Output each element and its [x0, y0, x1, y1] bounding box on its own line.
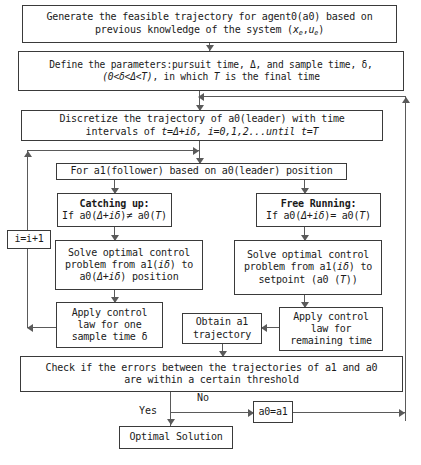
node-solve-optimal-right[interactable]: Solve optimal control problem from a1(iδ… [234, 240, 382, 295]
catching-cond-mid: )≠ a0( [120, 210, 155, 221]
connector-loop-return-horizontal [27, 150, 200, 151]
solve-right-line3-c: )) [346, 274, 358, 285]
node-optimal-solution[interactable]: Optimal Solution [119, 426, 233, 449]
reassign-text: a0=a1 [256, 406, 290, 418]
node-discretize-line1: Discretize the trajectory of a0(leader) … [24, 113, 380, 125]
node-generate-line1: Generate the feasible trajectory for age… [25, 11, 394, 23]
check-line1: Check if the errors between the trajecto… [23, 362, 400, 374]
node-reassign-a0[interactable]: a0=a1 [253, 401, 293, 423]
free-cond-it: Δ+iδ [301, 210, 324, 221]
solve-right-line3-a: setpoint (a0 ( [259, 274, 341, 285]
free-cond-pre: If a0( [266, 210, 301, 221]
node-for-a1-text: For a1(follower) based on a0(leader) pos… [59, 165, 344, 177]
node-discretize-trajectory[interactable]: Discretize the trajectory of a0(leader) … [21, 110, 383, 141]
apply-right-line3: remaining time [282, 335, 380, 347]
node-generate-trajectory[interactable]: Generate the feasible trajectory for age… [22, 5, 397, 43]
solve-left-line2-c: ) to [170, 259, 193, 270]
arrowhead-feedback-right-up [402, 97, 410, 103]
edge-label-no: No [197, 392, 209, 403]
node-apply-control-right[interactable]: Apply control law for remaining time [279, 307, 383, 351]
arrowhead-apply-left-to-loop [27, 324, 33, 332]
solve-right-line1: Solve optimal control [237, 249, 379, 261]
node-for-a1-follower[interactable]: For a1(follower) based on a0(leader) pos… [56, 163, 347, 180]
catching-cond-post: ) [161, 210, 167, 221]
arrowhead-check-to-optimal [167, 419, 175, 425]
node-define-tail: is the final time [219, 71, 319, 82]
apply-left-line1: Apply control [59, 307, 160, 319]
apply-right-line1: Apply control [282, 311, 380, 323]
edge-label-yes: Yes [139, 405, 157, 416]
check-line2: are within a certain threshold [23, 374, 400, 386]
solve-left-line2: problem from a1(iδ) to [58, 259, 200, 271]
node-apply-control-left[interactable]: Apply control law for one sample time δ [56, 302, 163, 348]
solve-right-line2: problem from a1(iδ) to [237, 261, 379, 273]
node-define-inequality: (0<δ<Δ<T) [102, 71, 152, 82]
catching-cond-pre: If a0( [62, 210, 97, 221]
node-catching-up-condition: If a0(Δ+iδ)≠ a0(T) [60, 210, 169, 222]
connector-feedback-top-horizontal [199, 96, 406, 97]
node-increment-counter[interactable]: i=i+1 [7, 230, 51, 249]
node-generate-line2-pre: previous knowledge of the system ( [95, 24, 293, 35]
node-define-mid: , in which [152, 71, 213, 82]
node-discretize-line2: intervals of t=Δ+iδ, i=0,1,2...until t=T [24, 126, 380, 138]
solve-left-line3-b: Δ+iδ [97, 271, 120, 282]
node-obtain-a1-trajectory[interactable]: Obtain a1 trajectory [182, 313, 262, 344]
solve-left-line2-b: iδ [158, 259, 170, 270]
apply-left-line2: law for one [59, 319, 160, 331]
solve-left-line3: a0(Δ+iδ) position [58, 271, 200, 283]
solve-left-line3-c: ) position [120, 271, 178, 282]
connector-feedback-right-vertical [405, 96, 406, 421]
arrowhead-reassign-to-feedback [399, 409, 405, 417]
node-catching-up-title: Catching up: [60, 198, 169, 210]
arrowhead-loop-left-up [24, 151, 32, 157]
obtain-line1: Obtain a1 [185, 316, 259, 328]
node-define-parameters[interactable]: Define the parameters:pursuit time, Δ, a… [18, 51, 404, 91]
solve-right-line3: setpoint (a0 (T)) [237, 274, 379, 286]
free-cond-mid: )= a0( [324, 210, 359, 221]
arrowhead-loop-return [193, 147, 199, 155]
connector-reassign-to-feedback [292, 412, 406, 413]
node-discretize-line2-d: t=T [295, 126, 318, 137]
solve-right-line2-b: iδ [337, 261, 349, 272]
solve-right-line2-c: ) to [349, 261, 372, 272]
solve-left-line3-a: a0( [80, 271, 97, 282]
node-define-line1: Define the parameters:pursuit time, Δ, a… [21, 59, 401, 71]
apply-left-line3: sample time δ [59, 331, 160, 343]
free-cond-post: ) [365, 210, 371, 221]
node-free-running-condition: If a0(Δ+iδ)= a0(T) [259, 210, 378, 222]
node-discretize-line2-b: t=Δ+iδ, i=0,1,2... [161, 126, 266, 137]
obtain-line2: trajectory [185, 329, 259, 341]
arrowhead-feedback-top [198, 93, 204, 101]
catching-cond-it: Δ+iδ [97, 210, 120, 221]
node-solve-optimal-left[interactable]: Solve optimal control problem from a1(iδ… [55, 240, 203, 290]
apply-right-line2: law for [282, 323, 380, 335]
node-catching-up[interactable]: Catching up: If a0(Δ+iδ)≠ a0(T) [57, 193, 172, 227]
node-define-line2: (0<δ<Δ<T), in which T is the final time [21, 71, 401, 83]
node-check-errors[interactable]: Check if the errors between the trajecto… [20, 356, 403, 392]
node-discretize-line2-a: intervals of [86, 126, 162, 137]
node-free-running[interactable]: Free Running: If a0(Δ+iδ)= a0(T) [256, 193, 381, 227]
node-generate-close: ) [318, 24, 324, 35]
flowchart-canvas: Generate the feasible trajectory for age… [0, 0, 421, 465]
node-discretize-until: until [266, 126, 295, 137]
node-generate-line2: previous knowledge of the system (xe,ue) [25, 24, 394, 37]
optimal-text: Optimal Solution [122, 431, 230, 443]
solve-left-line1: Solve optimal control [58, 247, 200, 259]
increment-text: i=i+1 [10, 233, 48, 245]
solve-left-line2-a: problem from a1( [65, 259, 158, 270]
node-free-running-title: Free Running: [259, 198, 378, 210]
connector-no-branch-horizontal [170, 412, 254, 413]
solve-right-line2-a: problem from a1( [244, 261, 337, 272]
